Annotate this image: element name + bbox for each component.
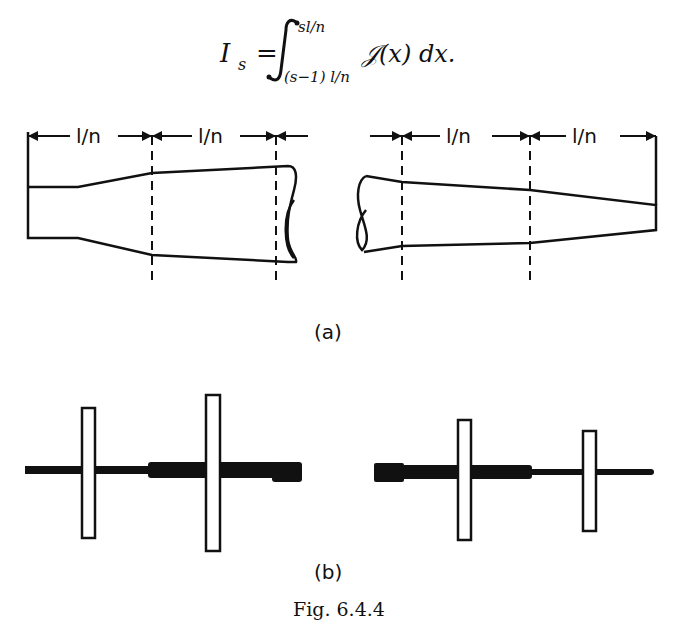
dimension-label: l/n — [76, 124, 101, 148]
disk-1 — [82, 408, 95, 538]
disk-4 — [583, 431, 596, 531]
section-lines-a-right — [402, 136, 530, 282]
figure-caption: Fig. 6.4.4 — [293, 598, 385, 620]
part-b-label: (b) — [314, 560, 342, 584]
figure-drawing — [0, 0, 684, 628]
lumped-model-right — [374, 420, 654, 540]
lumped-model-left — [25, 395, 302, 551]
disk-2 — [206, 395, 220, 551]
dimension-label: l/n — [572, 124, 597, 148]
dimension-label: l/n — [446, 124, 471, 148]
dimension-label: l/n — [198, 124, 223, 148]
shaft-a-left — [28, 132, 296, 262]
part-a-label: (a) — [314, 320, 342, 344]
disk-3 — [458, 420, 471, 540]
